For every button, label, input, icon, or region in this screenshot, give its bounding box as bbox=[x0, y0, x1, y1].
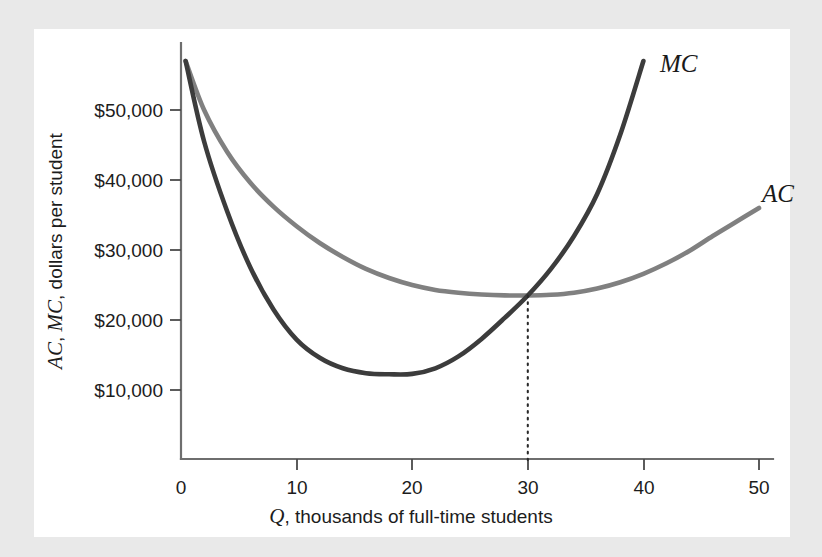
x-axis-title: Q, thousands of full-time students bbox=[269, 504, 552, 528]
x-tick-label-40: 40 bbox=[633, 477, 654, 498]
y-tick-label-10000: $10,000 bbox=[94, 380, 163, 401]
y-axis-tick-labels: $50,000 $40,000 $30,000 $20,000 $10,000 bbox=[94, 100, 163, 401]
x-tick-label-50: 50 bbox=[748, 477, 769, 498]
curve-label-mc: MC bbox=[659, 50, 698, 77]
svg-text:Q, thousands of full-time stud: Q, thousands of full-time students bbox=[269, 504, 552, 528]
x-tick-label-30: 30 bbox=[517, 477, 538, 498]
curve-average-cost bbox=[186, 61, 759, 296]
x-axis-tick-labels: 0 10 20 30 40 50 bbox=[176, 477, 770, 498]
y-tick-label-30000: $30,000 bbox=[94, 240, 163, 261]
x-tick-label-20: 20 bbox=[401, 477, 422, 498]
x-axis-title-symbol: Q bbox=[269, 504, 284, 528]
axes-group bbox=[181, 43, 773, 459]
y-axis-ticks bbox=[170, 110, 181, 390]
y-axis-title-symbol-mc: MC bbox=[43, 299, 67, 332]
curve-label-ac: AC bbox=[760, 180, 794, 207]
y-tick-label-50000: $50,000 bbox=[94, 100, 163, 121]
figure-root: $50,000 $40,000 $30,000 $20,000 $10,000 … bbox=[0, 0, 822, 557]
curve-marginal-cost bbox=[186, 61, 644, 374]
x-tick-label-10: 10 bbox=[286, 477, 307, 498]
y-tick-label-40000: $40,000 bbox=[94, 170, 163, 191]
svg-text:AC, MC, dollars per student: AC, MC, dollars per student bbox=[43, 132, 67, 370]
x-tick-label-0: 0 bbox=[176, 477, 187, 498]
y-tick-label-20000: $20,000 bbox=[94, 310, 163, 331]
y-axis-title-sep: , bbox=[45, 331, 66, 342]
y-axis-title: AC, MC, dollars per student bbox=[43, 132, 67, 370]
y-axis-title-text: , dollars per student bbox=[45, 132, 66, 300]
chart-canvas: $50,000 $40,000 $30,000 $20,000 $10,000 … bbox=[0, 0, 822, 557]
y-axis-title-symbol-ac: AC bbox=[43, 341, 67, 371]
x-axis-title-text: , thousands of full-time students bbox=[284, 506, 552, 527]
